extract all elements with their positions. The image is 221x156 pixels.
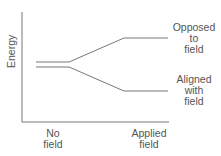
x-label-no-field: No field <box>38 128 68 150</box>
aligned-level-line <box>36 67 168 91</box>
level-label-line: field <box>168 44 220 55</box>
x-label-line: field <box>124 139 174 150</box>
x-label-line: field <box>38 139 68 150</box>
label-opposed-to-field: Opposed to field <box>168 22 220 55</box>
y-axis-label: Energy <box>5 35 17 68</box>
opposed-level-line <box>36 38 168 62</box>
level-label-line: field <box>168 96 220 107</box>
x-label-applied-field: Applied field <box>124 128 174 150</box>
label-aligned-with-field: Aligned with field <box>168 74 220 107</box>
